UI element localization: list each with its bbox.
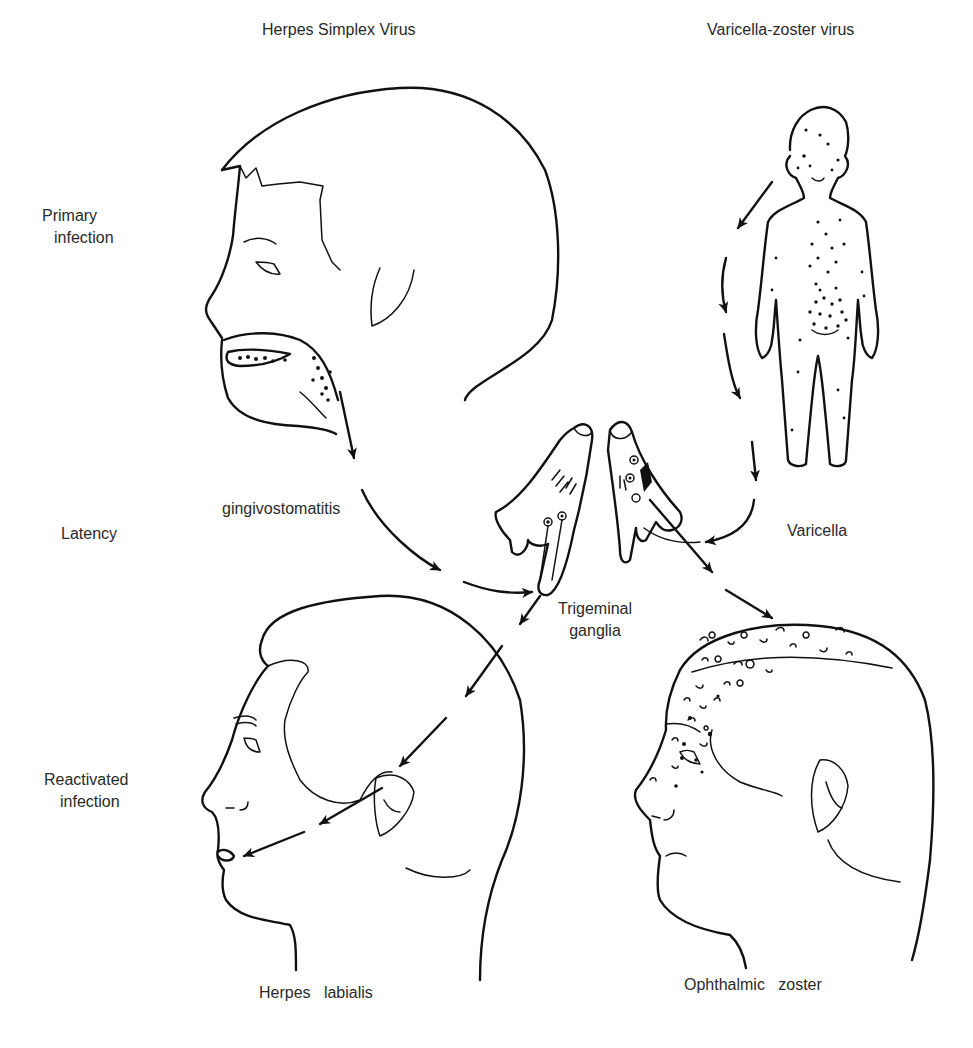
arrows xyxy=(244,182,772,856)
arrow-hsv-mouth-down xyxy=(340,392,354,458)
arrow-hsv-to-latency-1 xyxy=(362,490,440,570)
trigeminal-ganglion-left xyxy=(496,424,593,595)
hsv-adult-head-figure xyxy=(202,596,524,980)
hsv-child-head-figure xyxy=(206,88,558,434)
diagram-artwork xyxy=(0,0,973,1048)
trigeminal-ganglion-right xyxy=(608,422,682,562)
vzv-adult-head-figure xyxy=(635,625,933,968)
arrow-hsv-to-ganglion xyxy=(464,582,532,593)
vzv-child-body-figure xyxy=(756,107,878,466)
